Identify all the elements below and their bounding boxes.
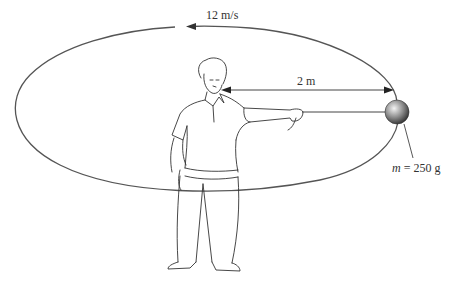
velocity-arrow-icon bbox=[186, 23, 196, 30]
diagram-canvas bbox=[0, 0, 450, 287]
mass-symbol: m bbox=[392, 161, 401, 175]
mass-leader-line bbox=[404, 124, 413, 158]
ball-icon bbox=[385, 100, 409, 124]
mass-value: = 250 g bbox=[404, 161, 441, 175]
orbit-path bbox=[15, 26, 398, 191]
speed-label: 12 m/s bbox=[206, 8, 238, 23]
radius-label: 2 m bbox=[297, 74, 315, 89]
mass-label: m = 250 g bbox=[392, 161, 440, 176]
radius-arrowhead-left-icon bbox=[221, 87, 231, 94]
